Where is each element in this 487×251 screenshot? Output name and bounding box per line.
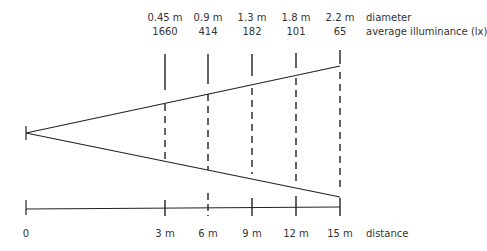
illuminance-row-label: average illuminance (lx)	[366, 26, 487, 38]
distance-row-label: distance	[366, 228, 408, 240]
distance-9m: 9 m	[242, 228, 261, 240]
diameter-9m: 1.3 m	[238, 12, 267, 24]
illuminance-6m: 414	[198, 26, 217, 38]
beam-upper-edge	[26, 66, 340, 133]
distance-origin: 0	[23, 228, 29, 240]
diameter-12m: 1.8 m	[282, 12, 311, 24]
diameter-6m: 0.9 m	[194, 12, 223, 24]
illuminance-3m: 1660	[152, 26, 177, 38]
beam-lower-edge	[26, 133, 340, 197]
distance-axis	[26, 207, 340, 209]
diameter-row-label: diameter	[366, 12, 411, 24]
diameter-3m: 0.45 m	[147, 12, 182, 24]
illuminance-9m: 182	[242, 26, 261, 38]
distance-15m: 15 m	[327, 228, 353, 240]
distance-12m: 12 m	[283, 228, 309, 240]
illuminance-15m: 65	[334, 26, 347, 38]
distance-3m: 3 m	[155, 228, 174, 240]
illuminance-12m: 101	[286, 26, 305, 38]
distance-6m: 6 m	[198, 228, 217, 240]
diameter-15m: 2.2 m	[326, 12, 355, 24]
